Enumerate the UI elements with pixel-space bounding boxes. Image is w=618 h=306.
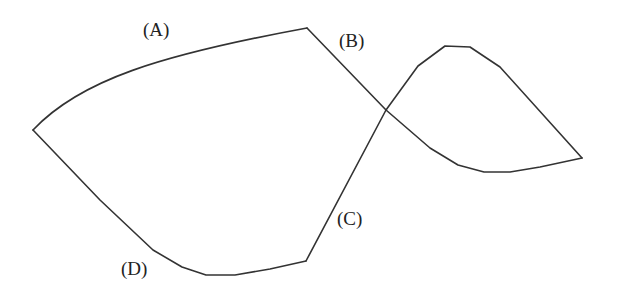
- label-b: (B): [339, 31, 364, 50]
- label-d: (D): [121, 259, 147, 278]
- diagram-canvas: [0, 0, 618, 306]
- label-a: (A): [143, 20, 169, 39]
- curve-d: [33, 130, 306, 275]
- curve-a: [33, 28, 307, 130]
- label-c: (C): [337, 209, 362, 228]
